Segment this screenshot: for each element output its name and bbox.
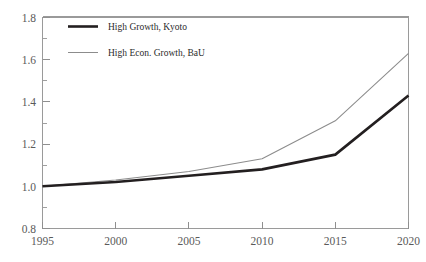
y-axis-minor-ticks xyxy=(43,39,47,208)
x-tick-label-0: 1995 xyxy=(31,235,54,247)
axis-frame xyxy=(43,17,409,229)
y-tick-label-5: 1.8 xyxy=(22,12,37,24)
y-tick-label-4: 1.6 xyxy=(22,54,37,66)
series-line-high-econ-growth-bau xyxy=(43,53,409,186)
y-tick-label-1: 1.0 xyxy=(22,181,37,193)
x-tick-label-3: 2010 xyxy=(251,235,274,247)
x-axis-major-ticks xyxy=(43,222,409,229)
legend-label-high-growth-kyoto: High Growth, Kyoto xyxy=(108,22,187,32)
legend-label-high-econ-growth-bau: High Econ. Growth, BaU xyxy=(108,48,205,58)
chart-canvas: 0.8 1.0 1.2 1.4 1.6 1.8 1995 2000 2005 2… xyxy=(0,0,426,262)
x-tick-label-4: 2015 xyxy=(324,235,347,247)
x-tick-label-5: 2020 xyxy=(397,235,420,247)
x-tick-label-2: 2005 xyxy=(177,235,200,247)
series-line-high-growth-kyoto xyxy=(43,96,409,187)
y-tick-label-3: 1.4 xyxy=(22,96,37,108)
x-axis-tick-labels: 1995 2000 2005 2010 2015 2020 xyxy=(31,235,420,247)
y-tick-label-2: 1.2 xyxy=(22,138,37,150)
chart-legend: High Growth, Kyoto High Econ. Growth, Ba… xyxy=(68,22,205,58)
x-tick-label-1: 2000 xyxy=(104,235,127,247)
y-tick-label-0: 0.8 xyxy=(22,223,37,235)
y-axis-tick-labels: 0.8 1.0 1.2 1.4 1.6 1.8 xyxy=(22,12,37,235)
line-chart-figure: 0.8 1.0 1.2 1.4 1.6 1.8 1995 2000 2005 2… xyxy=(0,0,426,262)
data-series-group xyxy=(43,53,409,186)
